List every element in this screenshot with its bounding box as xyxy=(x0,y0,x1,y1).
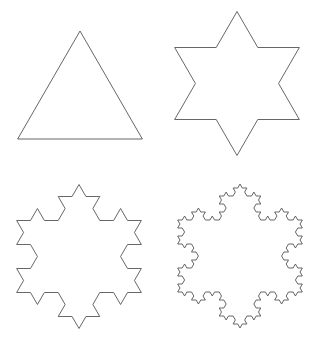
koch-snowflake-figure xyxy=(0,0,316,345)
background xyxy=(0,0,316,345)
